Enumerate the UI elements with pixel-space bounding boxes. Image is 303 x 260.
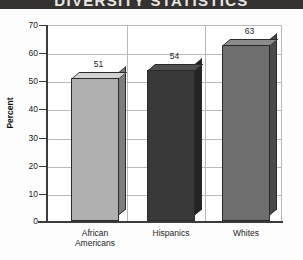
bar-front-face xyxy=(147,70,195,221)
bar-front-face xyxy=(71,78,119,221)
x-category-label-line: Whites xyxy=(208,228,284,238)
y-tick-label-70: 70 xyxy=(8,20,38,30)
bar-african-americans xyxy=(71,78,119,221)
category-divider-1 xyxy=(127,26,128,221)
x-category-label: AfricanAmericans xyxy=(57,228,133,248)
bar-whites xyxy=(222,45,270,221)
chart-title-band: DIVERSITY STATISTICS xyxy=(0,0,303,9)
bar-value-label: 63 xyxy=(222,26,277,36)
y-tick-mark-20 xyxy=(39,166,47,167)
y-tick-mark-10 xyxy=(39,194,47,195)
bar-top-face xyxy=(147,64,203,71)
bar-top-face xyxy=(71,72,127,79)
x-category-label: Whites xyxy=(208,228,284,238)
bar-side-face xyxy=(270,33,277,215)
x-category-label-line: Hispanics xyxy=(133,228,209,238)
y-tick-label-10: 10 xyxy=(8,189,38,199)
bar-side-face xyxy=(195,58,202,215)
bar-value-label: 51 xyxy=(71,59,126,69)
bar-top-face xyxy=(222,39,278,46)
y-tick-mark-40 xyxy=(39,109,47,110)
y-tick-mark-0 xyxy=(39,221,47,222)
y-tick-mark-50 xyxy=(39,81,47,82)
x-category-label-line: Americans xyxy=(57,238,133,248)
bar-front-face xyxy=(222,45,270,221)
y-tick-mark-30 xyxy=(39,138,47,139)
category-divider-2 xyxy=(205,26,206,221)
y-tick-label-20: 20 xyxy=(8,161,38,171)
bar-side-face xyxy=(119,66,126,215)
y-tick-label-60: 60 xyxy=(8,48,38,58)
chart-title: DIVERSITY STATISTICS xyxy=(0,0,303,9)
x-category-label-line: African xyxy=(57,228,133,238)
bar-hispanics xyxy=(147,70,195,221)
y-tick-mark-70 xyxy=(39,25,47,26)
y-axis-title: Percent xyxy=(5,83,15,143)
chart-figure: DIVERSITY STATISTICS 70 60 50 40 30 20 1… xyxy=(0,0,303,260)
bar-value-label: 54 xyxy=(147,51,202,61)
y-tick-mark-60 xyxy=(39,53,47,54)
y-tick-label-0: 0 xyxy=(8,216,38,226)
x-axis-line xyxy=(38,221,283,223)
x-category-label: Hispanics xyxy=(133,228,209,238)
